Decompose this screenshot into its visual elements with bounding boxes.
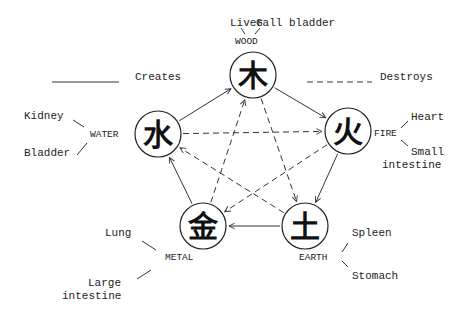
legend-creates-label: Creates (135, 71, 181, 83)
element-name-wood: WOOD (235, 36, 258, 47)
organ-large-intestine-1: Large (88, 277, 121, 289)
element-name-water: WATER (90, 129, 119, 140)
glyph-water: 水 (143, 117, 174, 152)
connector (73, 120, 84, 127)
organ-gall-bladder: Gall bladder (256, 17, 335, 29)
five-elements-diagram: Creates Destroys Liver Gall bladder WOOD… (0, 0, 472, 315)
glyph-wood: 木 (237, 58, 268, 93)
destroys-arrow-earth-to-water (180, 148, 284, 213)
creates-arrow-wood-to-fire (275, 88, 326, 118)
connector (401, 140, 408, 146)
creates-arrow-metal-to-water (169, 157, 192, 203)
element-name-earth: EARTH (299, 252, 328, 263)
element-wood: Liver Gall bladder WOOD 木 (230, 17, 335, 98)
element-name-metal: METAL (165, 252, 194, 263)
organ-small-intestine-1: Small (411, 146, 444, 158)
legend-destroys-label: Destroys (380, 71, 433, 83)
element-metal: 金 METAL Lung Large intestine (62, 203, 226, 302)
element-water: 水 WATER Kidney Bladder (24, 110, 181, 159)
organ-stomach: Stomach (352, 270, 398, 282)
organ-kidney: Kidney (24, 110, 64, 122)
destroys-arrow-metal-to-wood (211, 100, 245, 203)
organ-heart: Heart (411, 111, 444, 123)
organ-lung: Lung (105, 227, 131, 239)
connector (401, 121, 408, 128)
connector (142, 241, 156, 250)
element-earth: 土 EARTH Spleen Stomach (282, 203, 398, 282)
element-fire: 火 FIRE Heart Small intestine (325, 108, 444, 171)
connector (342, 261, 348, 267)
connector (342, 243, 348, 252)
glyph-fire: 火 (333, 114, 363, 149)
destroys-arrow-fire-to-metal (225, 145, 327, 212)
destroys-arrow-wood-to-earth (261, 99, 296, 202)
connector (137, 270, 151, 279)
creates-arrow-water-to-wood (179, 89, 231, 121)
organ-spleen: Spleen (352, 227, 392, 239)
creates-arrow-fire-to-earth (316, 154, 338, 203)
organ-bladder: Bladder (24, 147, 70, 159)
connector (77, 143, 87, 155)
glyph-earth: 土 (290, 209, 320, 244)
organ-large-intestine-2: intestine (62, 290, 121, 302)
glyph-metal: 金 (187, 209, 219, 244)
destroys-arrow-water-to-fire (183, 131, 322, 133)
organ-small-intestine-2: intestine (382, 159, 441, 171)
element-name-fire: FIRE (374, 128, 397, 139)
